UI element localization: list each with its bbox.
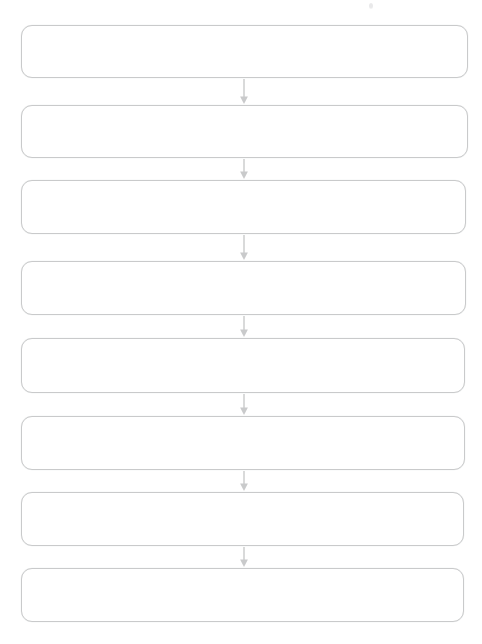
flow-arrow-down-icon (237, 159, 251, 179)
flow-arrow-down-icon (237, 235, 251, 260)
flowchart-node[interactable] (21, 105, 468, 158)
flowchart-node[interactable] (21, 416, 465, 470)
flowchart-node[interactable] (21, 180, 466, 234)
flowchart-canvas (0, 0, 482, 644)
flowchart-node[interactable] (21, 261, 466, 315)
flowchart-node[interactable] (21, 568, 464, 622)
flow-arrow-down-icon (237, 471, 251, 491)
scan-artifact-speck (369, 3, 373, 8)
flow-arrow-down-icon (237, 547, 251, 567)
flow-arrow-down-icon (237, 316, 251, 337)
flowchart-node[interactable] (21, 492, 464, 546)
flow-arrow-down-icon (237, 79, 251, 104)
flowchart-node[interactable] (21, 338, 465, 393)
flowchart-node[interactable] (21, 25, 468, 78)
flow-arrow-down-icon (237, 394, 251, 415)
